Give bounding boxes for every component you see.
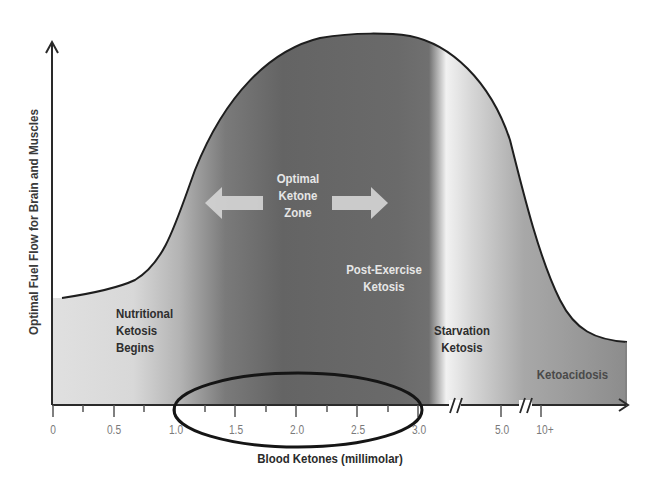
tick-label-1.0: 1.0	[169, 423, 183, 437]
x-ticks	[53, 405, 541, 417]
axis-break-icon	[449, 398, 462, 413]
tick-label-0.5: 0.5	[107, 423, 121, 437]
ketoacidosis-label: Ketoacidosis	[537, 366, 608, 383]
tick-label-2.5: 2.5	[351, 423, 365, 437]
starvation-ketosis-label: Starvation Ketosis	[427, 322, 497, 356]
tick-label-0: 0	[50, 423, 56, 437]
y-axis-label: Optimal Fuel Flow for Brain and Muscles	[26, 109, 41, 335]
tick-label-2.0: 2.0	[290, 423, 304, 437]
axis-break-icon	[519, 398, 532, 413]
optimal-ketone-zone-label: Optimal Ketone Zone	[272, 170, 325, 221]
nutritional-ketosis-label: Nutritional Ketosis Begins	[116, 305, 173, 356]
tick-label-5.0: 5.0	[495, 423, 509, 437]
tick-label-10-plus: 10+	[536, 423, 553, 437]
tick-label-3.0: 3.0	[412, 423, 426, 437]
tick-label-1.5: 1.5	[229, 423, 243, 437]
ketone-chart	[0, 0, 645, 482]
x-axis-label: Blood Ketones (millimolar)	[257, 451, 403, 466]
post-exercise-ketosis-label: Post-Exercise Ketosis	[340, 261, 428, 295]
